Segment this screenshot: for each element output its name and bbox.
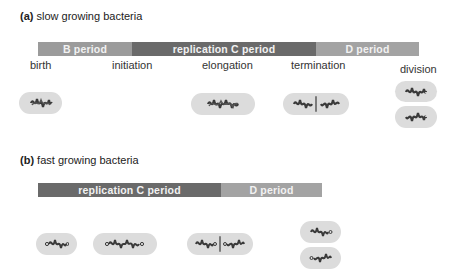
chromosome-icon	[195, 237, 217, 251]
panel-a-label: (a)	[20, 10, 33, 22]
panel-b-label: (b)	[20, 154, 34, 166]
bar-d-period-fast: D period	[221, 183, 322, 197]
bar-b-period: B period	[38, 42, 132, 56]
cell-fast-termination	[187, 233, 253, 255]
cell-birth	[19, 92, 62, 114]
stage-label-termination: termination	[291, 59, 345, 71]
septum	[219, 236, 221, 252]
cell-fast-birth	[36, 233, 77, 255]
chromosome-icon	[29, 96, 53, 110]
chromosome-icon	[223, 237, 245, 251]
chromosome-icon	[405, 85, 427, 99]
replicating-chromosome-icon	[206, 97, 240, 111]
replicating-chromosome-icon	[105, 237, 145, 251]
cell-division-top	[395, 81, 437, 102]
cell-division-bottom	[395, 106, 437, 128]
replicating-chromosome-icon	[45, 237, 69, 251]
bar-c-period-fast: replication C period	[38, 183, 221, 197]
panel-a-title: (a) slow growing bacteria	[20, 10, 142, 22]
bar-c-period: replication C period	[132, 42, 316, 56]
panel-b-title-text: fast growing bacteria	[37, 154, 139, 166]
septum	[315, 96, 317, 112]
chromosome-icon	[293, 97, 313, 111]
chromosome-icon	[309, 251, 333, 265]
panel-b-title: (b) fast growing bacteria	[20, 154, 139, 166]
chromosome-icon	[320, 97, 340, 111]
stage-label-division: division	[400, 63, 437, 75]
stage-label-birth: birth	[30, 59, 51, 71]
stage-label-elongation: elongation	[202, 59, 253, 71]
stage-label-initiation: initiation	[112, 59, 152, 71]
cell-fast-division-bottom	[300, 247, 341, 269]
cell-fast-division-top	[300, 221, 341, 243]
cell-fast-elongation	[93, 233, 157, 255]
cell-termination	[283, 93, 349, 115]
cell-elongation	[191, 93, 255, 115]
bar-d-period: D period	[316, 42, 419, 56]
panel-a-title-text: slow growing bacteria	[37, 10, 143, 22]
chromosome-icon	[309, 225, 333, 239]
chromosome-icon	[405, 110, 427, 124]
